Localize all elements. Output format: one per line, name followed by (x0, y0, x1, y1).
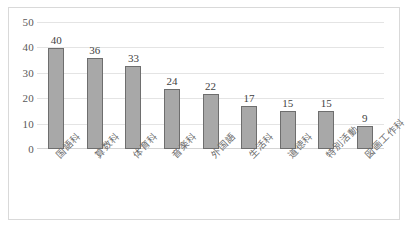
y-axis-tick: 20 (23, 92, 34, 104)
y-axis-tick: 10 (23, 118, 34, 130)
bar-slot: 24 (153, 22, 192, 149)
bar-value-label: 33 (128, 52, 139, 64)
chart-frame: 50 40 30 20 10 0 40 36 (8, 7, 400, 220)
y-axis: 50 40 30 20 10 0 (9, 8, 37, 221)
bar-slot: 15 (268, 22, 307, 149)
bar-value-label: 15 (282, 97, 293, 109)
y-axis-tick: 50 (23, 16, 34, 28)
bar-value-label: 9 (362, 112, 368, 124)
bar-value-label: 17 (244, 92, 255, 104)
bar-slot: 40 (37, 22, 76, 149)
bar-slot: 33 (114, 22, 153, 149)
y-axis-tick: 40 (23, 41, 34, 53)
bar-slot: 22 (191, 22, 230, 149)
bar[interactable] (125, 66, 141, 149)
bar-value-label: 15 (321, 97, 332, 109)
bar-value-label: 24 (166, 75, 177, 87)
chart-plot-wrapper: 50 40 30 20 10 0 40 36 (9, 8, 399, 219)
bar-slot: 36 (76, 22, 115, 149)
x-axis-category-labels: 国語科 算数科 体育科 音楽科 外国語 生活科 道徳科 特別活動 図画工作科 (37, 149, 384, 211)
bar-slot: 17 (230, 22, 269, 149)
bar[interactable] (87, 58, 103, 149)
bar-value-label: 36 (89, 44, 100, 56)
y-axis-tick: 0 (28, 143, 34, 155)
plot-area: 40 36 33 24 22 (37, 22, 384, 149)
bar-value-label: 40 (51, 34, 62, 46)
bar-value-label: 22 (205, 80, 216, 92)
y-axis-tick: 30 (23, 67, 34, 79)
bar[interactable] (48, 48, 64, 149)
bar-series: 40 36 33 24 22 (37, 22, 384, 149)
bar-slot: 15 (307, 22, 346, 149)
